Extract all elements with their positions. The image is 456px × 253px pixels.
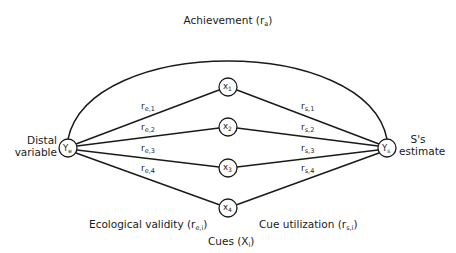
edge-label-rs3: rs,3 [301, 143, 314, 155]
node-x2: x2 [219, 118, 237, 136]
edge-label-rs2: rs,2 [301, 122, 314, 134]
cues-label: Cues (Xi) [208, 235, 254, 249]
edge-ye-x1 [76, 90, 219, 144]
estimate-label: S's [410, 133, 425, 145]
ecological-validity-label: Ecological validity (re,i) [89, 218, 207, 232]
edge-label-re2: re,2 [141, 122, 155, 134]
edge-label-re3: re,3 [141, 143, 155, 155]
edge-x1-ys [237, 90, 379, 144]
lens-model-diagram: Achievement (ra) re,1 re,2 re,3 re,4 rs,… [0, 0, 456, 253]
distal-variable-label: Distal [27, 134, 57, 146]
edge-ye-x4 [76, 153, 220, 205]
node-ye: Ye [59, 139, 77, 157]
edge-label-re4: re,4 [141, 163, 155, 175]
estimate-label-2: estimate [399, 145, 445, 157]
node-x4: x4 [219, 199, 237, 217]
node-x3: x3 [219, 159, 237, 177]
distal-variable-label-2: variable [15, 146, 57, 158]
edge-label-rs1: rs,1 [301, 101, 314, 113]
node-x1: x1 [219, 78, 237, 96]
edge-label-rs4: rs,4 [301, 163, 314, 175]
achievement-label: Achievement (ra) [184, 14, 273, 28]
node-ys: Ys [378, 139, 396, 157]
edge-label-re1: re,1 [141, 101, 155, 113]
edge-x4-ys [236, 153, 379, 205]
cue-utilization-label: Cue utilization (rs,i) [259, 218, 358, 232]
